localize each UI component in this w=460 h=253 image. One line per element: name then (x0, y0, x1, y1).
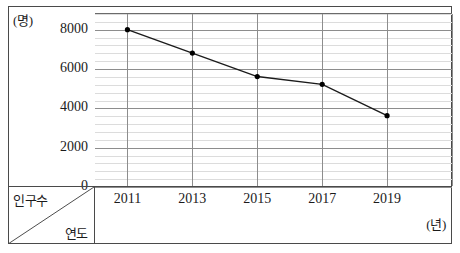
series-line (127, 30, 387, 116)
chart-screenshot: (명) (년) 02000400060008000 20112013201520… (0, 0, 460, 253)
y-axis-tick-label: 4000 (60, 99, 88, 115)
plot-area (95, 13, 452, 186)
axis-legend-corner-box: 인구수 연도 (8, 186, 95, 244)
x-axis-tick-label: 2013 (178, 191, 206, 207)
gridline-major-horizontal (95, 187, 452, 188)
y-axis-tick-label: 2000 (60, 139, 88, 155)
x-axis-tick-label: 2017 (308, 191, 336, 207)
x-axis-tick-label: 2011 (114, 191, 141, 207)
corner-label-population: 인구수 (13, 190, 48, 209)
x-axis-unit-label: (년) (426, 214, 446, 233)
data-point-marker (320, 82, 325, 87)
y-axis-tick-label: 8000 (60, 21, 88, 37)
gridline-major-vertical (452, 14, 453, 186)
corner-label-year: 연도 (65, 223, 88, 242)
data-point-marker (125, 27, 130, 32)
data-series-layer (95, 14, 452, 186)
data-point-marker (255, 74, 260, 79)
x-axis-tick-label: 2019 (373, 191, 401, 207)
y-axis-unit-label: (명) (13, 10, 33, 29)
data-point-marker (384, 113, 389, 118)
y-axis-tick-label: 6000 (60, 60, 88, 76)
x-axis-tick-label: 2015 (243, 191, 271, 207)
x-axis-baseline (95, 186, 452, 187)
data-point-marker (190, 51, 195, 56)
